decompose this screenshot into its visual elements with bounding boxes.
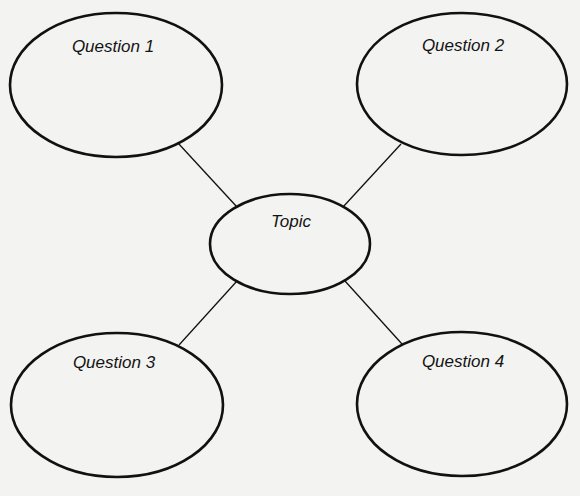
ellipse-q2: [357, 13, 567, 155]
concept-web-diagram: Question 1 Question 2 Question 3 Questio…: [0, 0, 580, 496]
node-label-question-2: Question 2: [422, 37, 504, 54]
connector-line-q2: [343, 144, 401, 207]
node-label-question-1: Question 1: [72, 38, 154, 55]
connector-line-q1: [178, 143, 237, 207]
center-label-topic: Topic: [271, 213, 311, 230]
ellipse-shapes: [10, 13, 567, 477]
diagram-graphics: [0, 0, 580, 496]
connector-lines: [178, 143, 402, 345]
node-label-question-3: Question 3: [73, 354, 155, 371]
ellipse-topic: [210, 194, 370, 294]
node-label-question-4: Question 4: [422, 353, 504, 370]
ellipse-q1: [10, 13, 222, 157]
connector-line-q4: [345, 281, 402, 344]
connector-line-q3: [179, 281, 237, 345]
